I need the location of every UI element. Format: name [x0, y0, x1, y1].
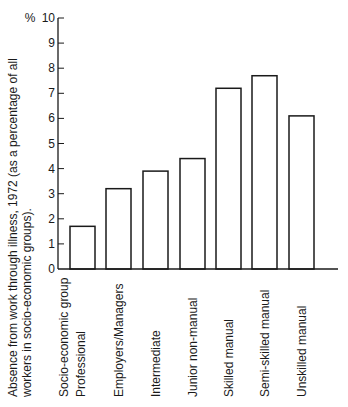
- bars: [70, 76, 314, 269]
- bar: [180, 159, 205, 269]
- bar: [216, 88, 241, 269]
- y-tick-label: 5: [48, 137, 55, 151]
- category-label: Junior non-manual: [186, 298, 200, 397]
- y-tick-label: 8: [48, 61, 55, 75]
- y-tick-label: 1: [48, 237, 55, 251]
- category-label: Unskilled manual: [295, 306, 309, 397]
- bar: [143, 171, 168, 269]
- y-tick-label: 9: [48, 36, 55, 50]
- y-axis-label-line2: workers in socio-economic groups).: [20, 208, 34, 398]
- bar: [106, 189, 131, 269]
- category-label: Semi-skilled manual: [258, 290, 272, 397]
- category-labels: Socio-economic groupProfessionalEmployer…: [57, 277, 309, 397]
- y-axis-label-line1: Absence from work through illness, 1972 …: [6, 58, 20, 397]
- x-axis-title: Socio-economic group: [57, 277, 71, 397]
- y-tick-label: 0: [48, 262, 55, 276]
- category-label: Employers/Managers: [112, 284, 126, 397]
- y-tick-label: 3: [48, 187, 55, 201]
- bar: [289, 116, 314, 269]
- y-tick-label: 6: [48, 111, 55, 125]
- bar: [70, 226, 95, 269]
- y-tick-label: 4: [48, 162, 55, 176]
- y-tick-label: 10: [42, 11, 56, 25]
- bar-chart: 012345678910% Socio-economic groupProfes…: [0, 0, 348, 407]
- category-label: Intermediate: [149, 330, 163, 397]
- y-axis-label: Absence from work through illness, 1972 …: [6, 58, 34, 398]
- category-label: Professional: [74, 331, 88, 397]
- category-label: Skilled manual: [222, 319, 236, 397]
- bar: [252, 76, 277, 269]
- y-tick-label: 2: [48, 212, 55, 226]
- y-unit-label: %: [25, 11, 36, 25]
- y-tick-label: 7: [48, 86, 55, 100]
